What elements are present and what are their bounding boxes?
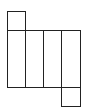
side-face-4 [62,31,81,88]
side-face-1 [8,31,26,88]
bottom-flap-face [62,88,81,107]
side-face-2 [26,31,44,88]
top-flap-face [8,12,26,31]
side-face-3 [44,31,62,88]
prism-net-diagram [0,0,95,111]
